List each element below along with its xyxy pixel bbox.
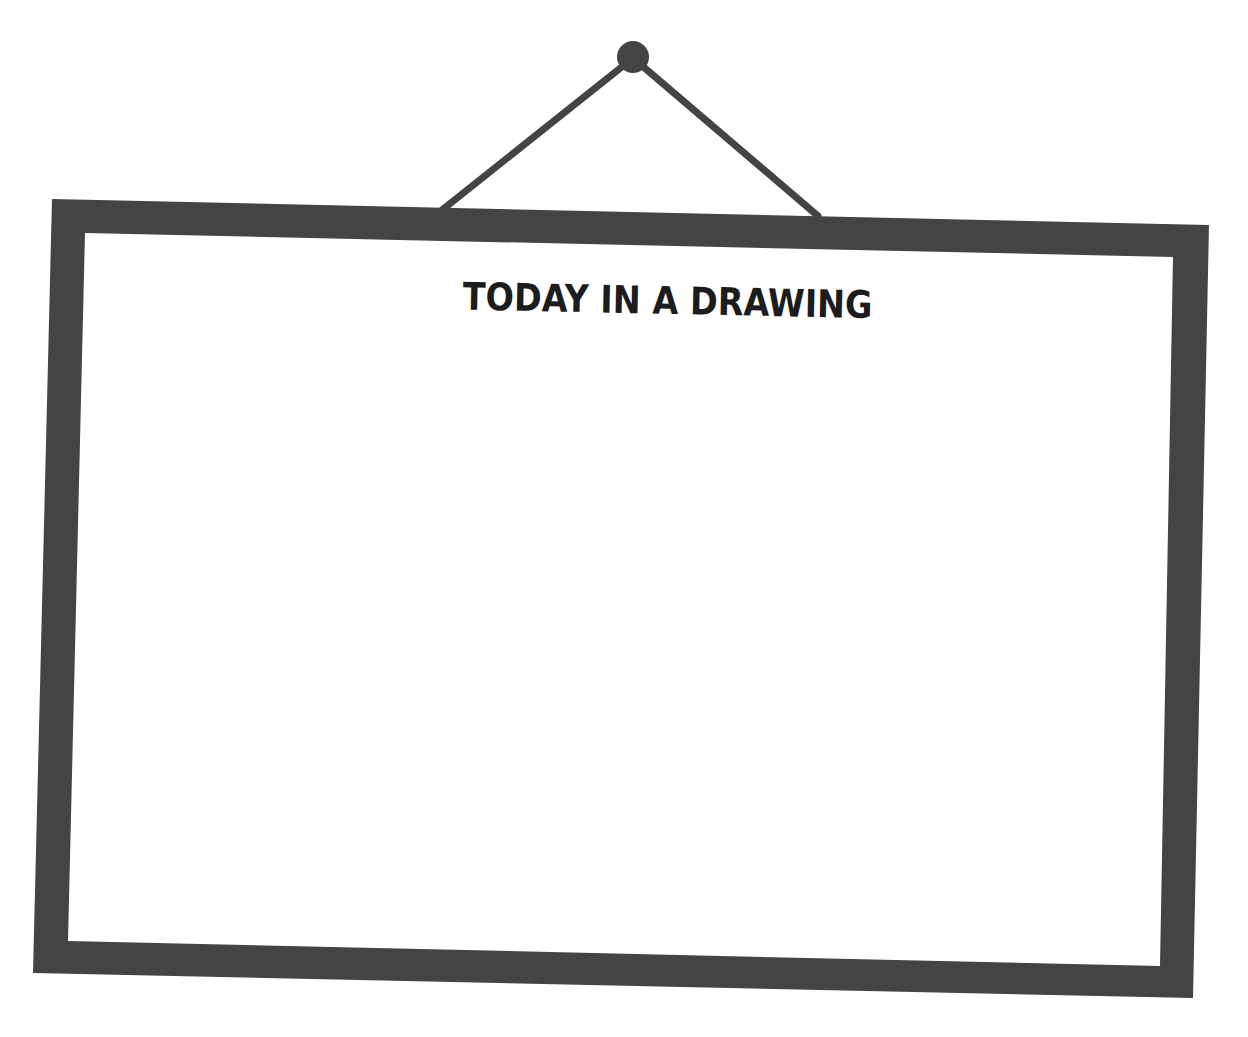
hanging-frame-illustration: [0, 0, 1248, 1037]
drawing-canvas[interactable]: [68, 233, 1173, 966]
nail-icon: [617, 41, 649, 73]
frame-title: TODAY IN A DRAWING: [462, 275, 797, 326]
hanging-string: [442, 58, 818, 216]
